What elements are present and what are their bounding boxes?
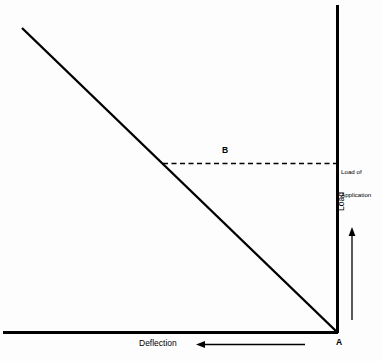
point-b-label: B: [222, 146, 228, 155]
deflection-axis-label: Deflection: [139, 339, 177, 348]
point-a-label: A: [336, 338, 342, 347]
load-of-application-line2: Application: [341, 191, 371, 199]
load-deflection-diagram: A B Deflection Load Load of Application: [0, 0, 382, 361]
load-direction-arrow: [349, 227, 356, 320]
diagram-canvas: [0, 0, 382, 361]
deflection-direction-arrow: [196, 341, 305, 348]
load-deflection-line: [22, 28, 337, 332]
load-of-application-line1: Load of: [341, 168, 371, 176]
load-of-application-label: Load of Application: [341, 152, 371, 214]
